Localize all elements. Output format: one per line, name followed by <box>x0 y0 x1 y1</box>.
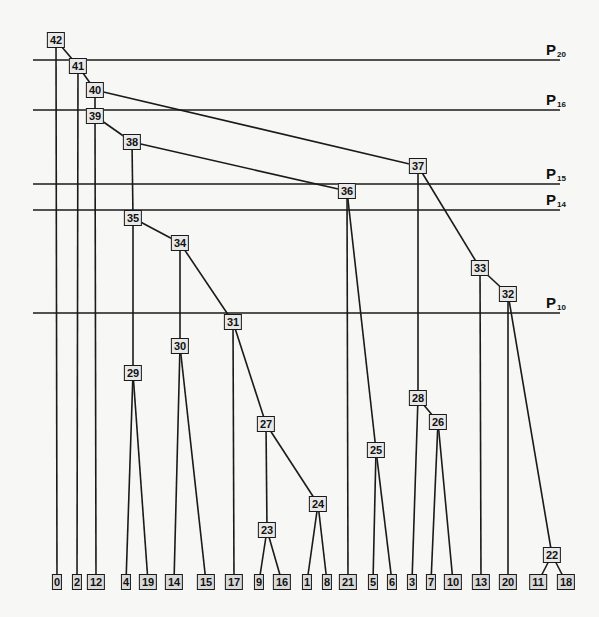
leaf-node-5: 5 <box>368 574 378 590</box>
partition-label-subscript: 20 <box>557 50 566 59</box>
edge-29-19 <box>133 373 148 582</box>
partition-label-p15: P15 <box>546 165 566 183</box>
leaf-node-15: 15 <box>197 574 215 590</box>
partition-label-letter: P <box>546 41 556 58</box>
leaf-node-14: 14 <box>165 574 183 590</box>
partition-label-subscript: 10 <box>557 303 566 312</box>
partition-label-letter: P <box>546 91 556 108</box>
edge-36-25 <box>347 191 376 450</box>
cluster-node-26: 26 <box>429 414 447 430</box>
leaf-node-11: 11 <box>529 574 547 590</box>
leaf-node-19: 19 <box>139 574 157 590</box>
edge-25-5 <box>373 450 376 582</box>
partition-label-letter: P <box>546 165 556 182</box>
leaf-node-4: 4 <box>121 574 131 590</box>
leaf-node-9: 9 <box>254 574 264 590</box>
leaf-node-6: 6 <box>387 574 397 590</box>
partition-label-p10: P10 <box>546 294 566 312</box>
edge-29-4 <box>126 373 133 582</box>
edge-39-12 <box>95 116 96 582</box>
edge-27-24 <box>266 424 318 504</box>
cluster-node-35: 35 <box>124 210 142 226</box>
cluster-node-38: 38 <box>123 134 141 150</box>
partition-label-subscript: 14 <box>557 200 566 209</box>
leaf-node-13: 13 <box>472 574 490 590</box>
cluster-node-33: 33 <box>471 260 489 276</box>
leaf-node-12: 12 <box>87 574 105 590</box>
cluster-node-34: 34 <box>171 235 189 251</box>
leaf-node-7: 7 <box>426 574 436 590</box>
cluster-node-31: 31 <box>224 314 242 330</box>
edge-37-33 <box>418 166 480 268</box>
leaf-node-2: 2 <box>72 574 82 590</box>
edge-28-3 <box>412 398 418 582</box>
cluster-node-24: 24 <box>309 496 327 512</box>
edge-31-17 <box>233 322 234 582</box>
edge-40-37 <box>95 90 418 166</box>
partition-label-letter: P <box>546 191 556 208</box>
edge-24-1 <box>307 504 318 582</box>
edge-32-22 <box>508 294 552 555</box>
edge-25-6 <box>376 450 392 582</box>
cluster-node-36: 36 <box>338 183 356 199</box>
leaf-node-21: 21 <box>339 574 357 590</box>
edge-38-35 <box>132 142 133 218</box>
edge-26-10 <box>438 422 453 582</box>
edge-42-0 <box>56 40 57 582</box>
cluster-node-28: 28 <box>409 390 427 406</box>
cluster-node-25: 25 <box>367 442 385 458</box>
leaf-node-20: 20 <box>499 574 517 590</box>
leaf-node-16: 16 <box>273 574 291 590</box>
leaf-node-10: 10 <box>444 574 462 590</box>
cluster-node-32: 32 <box>499 286 517 302</box>
partition-label-p14: P14 <box>546 191 566 209</box>
leaf-node-3: 3 <box>407 574 417 590</box>
leaf-node-17: 17 <box>225 574 243 590</box>
edge-36-21 <box>347 191 348 582</box>
edge-33-13 <box>480 268 481 582</box>
edge-24-8 <box>318 504 327 582</box>
edge-34-31 <box>180 243 233 322</box>
partition-label-subscript: 15 <box>557 174 566 183</box>
cluster-node-27: 27 <box>257 416 275 432</box>
partition-label-p16: P16 <box>546 91 566 109</box>
leaf-node-0: 0 <box>52 574 62 590</box>
edge-41-2 <box>77 66 78 582</box>
cluster-node-39: 39 <box>86 108 104 124</box>
cluster-node-42: 42 <box>47 32 65 48</box>
cluster-node-22: 22 <box>543 547 561 563</box>
partition-label-subscript: 16 <box>557 100 566 109</box>
cluster-node-30: 30 <box>171 338 189 354</box>
partition-label-p20: P20 <box>546 41 566 59</box>
leaf-node-18: 18 <box>557 574 575 590</box>
cluster-node-29: 29 <box>124 365 142 381</box>
edge-30-15 <box>180 346 206 582</box>
cluster-node-37: 37 <box>409 158 427 174</box>
leaf-node-1: 1 <box>302 574 312 590</box>
cluster-node-41: 41 <box>69 58 87 74</box>
edge-30-14 <box>174 346 180 582</box>
edge-27-23 <box>266 424 267 530</box>
cluster-node-40: 40 <box>86 82 104 98</box>
edge-26-7 <box>431 422 438 582</box>
leaf-node-8: 8 <box>322 574 332 590</box>
partition-label-letter: P <box>546 294 556 311</box>
cluster-node-23: 23 <box>258 522 276 538</box>
edge-31-27 <box>233 322 266 424</box>
